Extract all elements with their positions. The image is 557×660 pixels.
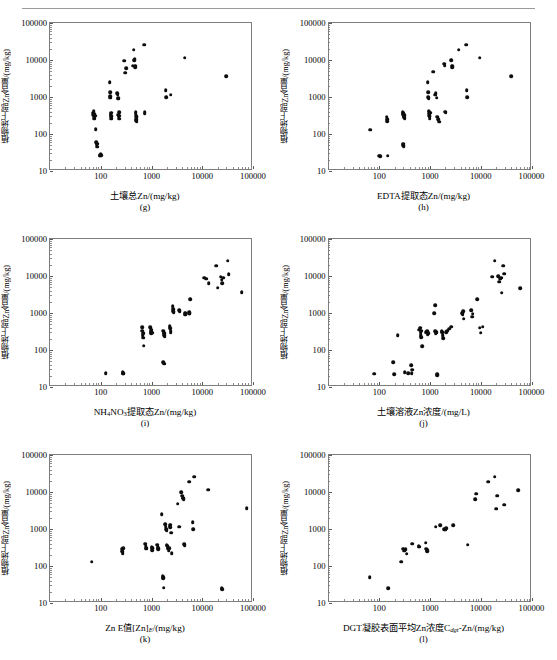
data-point	[437, 120, 441, 124]
y-tick-label: 10	[317, 167, 326, 176]
x-tick-label: 100	[373, 604, 386, 613]
x-tick-label: 1000	[143, 604, 160, 613]
x-tick-mark	[152, 382, 153, 385]
y-tick-mark	[329, 566, 332, 567]
x-minor-tick	[242, 167, 243, 169]
data-point	[142, 344, 146, 348]
y-minor-tick	[50, 254, 52, 255]
x-minor-tick	[425, 383, 426, 385]
header-rule	[22, 8, 535, 9]
data-point	[465, 88, 469, 92]
data-point	[94, 127, 98, 131]
y-minor-tick	[50, 585, 52, 586]
y-minor-tick	[329, 352, 331, 353]
x-tick-mark	[481, 598, 482, 601]
y-minor-tick	[50, 459, 52, 460]
y-minor-tick	[50, 42, 52, 43]
y-minor-tick	[329, 68, 331, 69]
data-point	[165, 529, 169, 533]
x-minor-tick	[65, 599, 66, 601]
data-point	[434, 92, 438, 96]
data-point	[125, 66, 129, 70]
x-minor-tick	[245, 167, 246, 169]
y-tick-label: 100	[34, 346, 47, 355]
x-minor-tick	[353, 599, 354, 601]
x-minor-tick	[395, 383, 396, 385]
x-minor-tick	[98, 383, 99, 385]
y-minor-tick	[329, 243, 331, 244]
y-minor-tick	[329, 474, 331, 475]
x-minor-tick	[167, 599, 168, 601]
data-point	[168, 547, 172, 551]
data-point	[164, 88, 168, 92]
data-point	[221, 281, 225, 285]
x-tick-label: 100000	[240, 604, 266, 613]
y-minor-tick	[50, 369, 52, 370]
x-tick-mark	[430, 382, 431, 385]
data-point	[122, 59, 126, 63]
data-point	[245, 507, 249, 511]
y-tick-mark	[329, 387, 332, 388]
x-minor-tick	[147, 599, 148, 601]
y-minor-tick	[50, 535, 52, 536]
data-point	[204, 277, 208, 281]
y-minor-tick	[329, 470, 331, 471]
x-minor-tick	[200, 167, 201, 169]
y-minor-tick	[329, 581, 331, 582]
x-minor-tick	[89, 599, 90, 601]
x-axis-label: 土壤溶液Zn浓度/(mg/L)	[309, 404, 539, 418]
data-point	[475, 492, 479, 496]
x-minor-tick	[359, 383, 360, 385]
x-minor-tick	[116, 383, 117, 385]
y-minor-tick	[329, 250, 331, 251]
x-minor-tick	[428, 167, 429, 169]
x-minor-tick	[371, 167, 372, 169]
x-minor-tick	[364, 383, 365, 385]
x-axis-label: EDTA提取态Zn/(mg/kg)	[309, 188, 539, 202]
x-minor-tick	[187, 383, 188, 385]
y-minor-tick	[50, 328, 52, 329]
data-point	[465, 95, 469, 99]
x-minor-tick	[524, 599, 525, 601]
y-minor-tick	[50, 25, 52, 26]
x-minor-tick	[511, 167, 512, 169]
y-minor-tick	[50, 540, 52, 541]
data-point	[403, 117, 407, 121]
data-point	[135, 116, 139, 120]
data-point	[426, 332, 430, 336]
x-minor-tick	[200, 383, 201, 385]
y-minor-tick	[329, 496, 331, 497]
x-minor-tick	[248, 599, 249, 601]
x-minor-tick	[473, 383, 474, 385]
x-minor-tick	[125, 167, 126, 169]
y-minor-tick	[329, 354, 331, 355]
y-minor-tick	[329, 27, 331, 28]
data-point	[222, 276, 226, 280]
y-minor-tick	[329, 291, 331, 292]
y-minor-tick	[50, 71, 52, 72]
x-minor-tick	[65, 383, 66, 385]
x-minor-tick	[197, 383, 198, 385]
x-minor-tick	[403, 599, 404, 601]
x-minor-tick	[144, 383, 145, 385]
x-minor-tick	[524, 383, 525, 385]
data-point	[156, 548, 160, 552]
y-minor-tick	[329, 481, 331, 482]
x-minor-tick	[496, 167, 497, 169]
x-minor-tick	[136, 599, 137, 601]
y-minor-tick	[50, 258, 52, 259]
x-tick-mark	[202, 166, 203, 169]
x-minor-tick	[245, 383, 246, 385]
y-minor-tick	[50, 503, 52, 504]
x-minor-tick	[218, 167, 219, 169]
scatter-panel-l: 植物地上部Zn含量/(mg/kg)10100100010000100000100…	[279, 442, 557, 658]
data-point	[141, 336, 145, 340]
y-minor-tick	[329, 361, 331, 362]
x-tick-mark	[101, 598, 102, 601]
data-point	[110, 115, 114, 119]
data-point	[404, 548, 408, 552]
x-minor-tick	[81, 599, 82, 601]
x-minor-tick	[125, 599, 126, 601]
y-minor-tick	[329, 112, 331, 113]
data-point	[121, 547, 125, 551]
